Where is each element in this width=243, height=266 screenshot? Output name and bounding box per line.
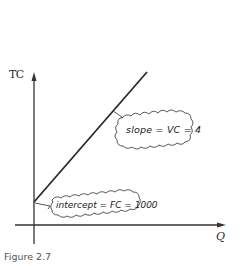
- figure-caption: Figure 2.7: [4, 251, 51, 262]
- x-axis-arrow-icon: [217, 223, 226, 228]
- slope-callout-text: slope = VC = 4: [126, 124, 201, 135]
- y-axis-label: TC: [9, 68, 24, 81]
- x-axis: [15, 223, 226, 228]
- tc-diagram-graphic: [0, 0, 243, 266]
- x-axis-label: Q: [216, 230, 225, 243]
- y-axis-arrow-icon: [32, 72, 37, 81]
- intercept-callout-text: intercept = FC = 1000: [56, 200, 158, 210]
- figure-2-7: TC Q slope = VC = 4 intercept = FC = 100…: [0, 0, 243, 266]
- y-axis: [32, 72, 37, 244]
- intercept-callout-pointer: [35, 203, 50, 209]
